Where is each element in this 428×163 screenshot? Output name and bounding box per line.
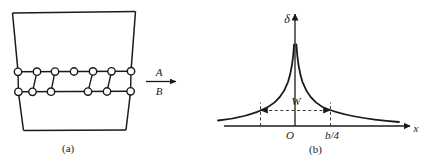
label-B: B (156, 85, 163, 97)
specimen-svg: A B (0, 0, 214, 163)
x-axis-label: x (413, 122, 419, 134)
top-node-4 (70, 68, 77, 75)
panel-a-specimen-diagram: A B (a) (0, 0, 214, 163)
top-node-3 (51, 68, 58, 75)
top-node-1 (14, 68, 21, 75)
bottom-node-1 (15, 88, 22, 95)
tick-label-b-over-4: b/4 (325, 129, 340, 141)
figure-root: A B (a) (0, 0, 428, 163)
origin-label: O (286, 129, 294, 141)
top-node-7 (127, 68, 134, 75)
delta-curve-right (296, 45, 399, 123)
width-label: W (291, 95, 301, 107)
specimen-bottom-edge (24, 130, 127, 131)
ab-section-arrow: A B (146, 66, 176, 97)
bottom-node-6 (127, 88, 134, 95)
specimen-lower-left-side (18, 92, 23, 131)
bottom-node-5 (103, 88, 110, 95)
delta-axis-label: δ (284, 12, 290, 26)
label-A: A (155, 66, 163, 78)
caption-a: (a) (62, 142, 74, 154)
caption-b: (b) (309, 143, 322, 155)
delta-plot-svg: δ x O b/4 W (214, 0, 428, 163)
bottom-node-2 (29, 88, 36, 95)
top-node-2 (33, 68, 40, 75)
specimen-upper-left-side (13, 13, 19, 72)
top-node-6 (108, 68, 115, 75)
specimen-lower-right-side (126, 92, 131, 131)
panel-b-delta-plot: δ x O b/4 W (b) (214, 0, 428, 163)
bottom-node-4 (84, 88, 91, 95)
specimen-upper-right-side (131, 12, 136, 72)
bottom-node-3 (47, 88, 54, 95)
specimen-top-edge (13, 12, 136, 14)
top-node-5 (89, 68, 96, 75)
delta-curve-left (218, 45, 294, 121)
